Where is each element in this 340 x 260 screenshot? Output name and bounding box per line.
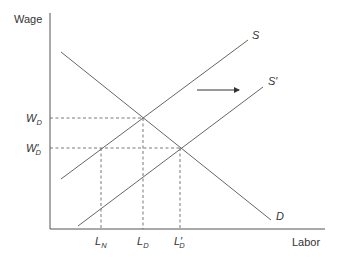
labor-label-ln: LN — [95, 235, 107, 250]
supply-label: S — [252, 29, 260, 41]
x-axis-label: Labor — [292, 236, 320, 248]
labor-market-diagram: Wage Labor S S′ D WD W′D LN LD L′D — [0, 0, 340, 260]
demand-curve — [61, 52, 271, 220]
labor-label-ld: LD — [137, 235, 149, 250]
y-axis-label: Wage — [14, 13, 42, 25]
supply-curve — [61, 40, 248, 179]
labor-label-ld-prime: L′D — [174, 235, 185, 250]
demand-label: D — [276, 210, 284, 222]
supply-shifted-curve — [78, 87, 263, 226]
wage-label-wd-prime: W′D — [26, 142, 41, 157]
supply-shifted-label: S′ — [268, 75, 278, 87]
wage-label-wd: WD — [26, 112, 42, 127]
